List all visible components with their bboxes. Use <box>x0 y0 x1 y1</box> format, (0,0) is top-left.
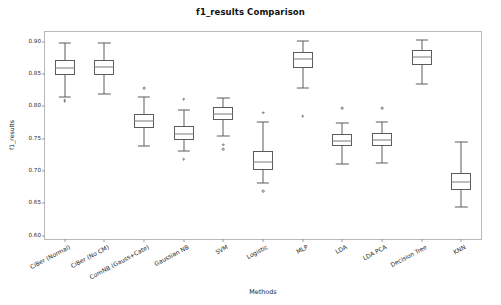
median-line <box>55 67 75 68</box>
whisker-cap-lower <box>455 206 467 207</box>
median-line <box>412 57 432 58</box>
y-axis-label: f1_results <box>8 120 15 150</box>
x-axis-tick-label: CiBer (Normal) <box>29 244 71 270</box>
box-iqr <box>293 52 313 68</box>
whisker-upper <box>263 122 264 151</box>
whisker-upper <box>302 41 303 52</box>
whisker-lower <box>461 190 462 206</box>
whisker-upper <box>144 97 145 113</box>
x-axis-tick-mark <box>381 239 382 242</box>
outlier-point <box>182 98 185 101</box>
whisker-cap-lower <box>59 97 71 98</box>
whisker-upper <box>381 122 382 133</box>
whisker-cap-lower <box>217 135 229 136</box>
x-axis-tick-mark <box>421 239 422 242</box>
median-line <box>174 133 194 134</box>
y-axis-tick-label: 0.80 <box>29 104 41 110</box>
chart-title: f1_results Comparison <box>0 7 501 17</box>
x-axis-tick-label: Gaussian NB <box>153 244 189 267</box>
x-axis-tick-label: KNN <box>453 244 467 255</box>
y-axis-tick-mark <box>42 138 45 139</box>
y-axis-tick-label: 0.85 <box>29 71 41 77</box>
box-plot-group <box>174 32 194 239</box>
whisker-lower <box>223 120 224 136</box>
outlier-point <box>143 87 146 90</box>
whisker-lower <box>144 128 145 145</box>
box-plot-group <box>332 32 352 239</box>
box-plot-group <box>451 32 471 239</box>
x-axis-tick-mark <box>144 239 145 242</box>
outlier-point <box>381 107 384 110</box>
figure-canvas: f1_results Comparison f1_results 0.600.6… <box>0 0 501 305</box>
whisker-cap-upper <box>376 122 388 123</box>
whisker-upper <box>461 142 462 173</box>
x-axis-tick-mark <box>183 239 184 242</box>
whisker-cap-upper <box>455 141 467 142</box>
box-plot-group <box>412 32 432 239</box>
whisker-cap-upper <box>336 123 348 124</box>
x-axis-tick-mark <box>64 239 65 242</box>
median-line <box>134 120 154 121</box>
plot-area: 0.600.650.700.750.800.850.90 <box>44 31 482 240</box>
x-axis-tick-mark <box>263 239 264 242</box>
x-axis-label: Methods <box>44 288 482 296</box>
whisker-lower <box>104 75 105 94</box>
whisker-cap-lower <box>138 145 150 146</box>
x-axis-tick-mark <box>302 239 303 242</box>
median-line <box>293 59 313 60</box>
box-plot-group <box>213 32 233 239</box>
y-axis-tick-label: 0.65 <box>29 201 41 207</box>
whisker-upper <box>104 43 105 60</box>
whisker-upper <box>64 43 65 60</box>
whisker-cap-lower <box>336 163 348 164</box>
whisker-upper <box>342 123 343 134</box>
box-iqr <box>253 151 273 169</box>
x-axis-tick-label: LDA PCA <box>362 244 388 261</box>
box-plot-group <box>293 32 313 239</box>
whisker-cap-upper <box>217 97 229 98</box>
y-axis-tick-mark <box>42 106 45 107</box>
whisker-cap-upper <box>59 42 71 43</box>
whisker-lower <box>381 146 382 163</box>
outlier-point <box>262 190 265 193</box>
x-axis-tick-mark <box>223 239 224 242</box>
outlier-point <box>64 100 67 103</box>
whisker-upper <box>223 98 224 107</box>
box-plot-group <box>372 32 392 239</box>
median-line <box>94 66 114 67</box>
x-axis-tick-label: SVM <box>215 244 229 255</box>
whisker-cap-lower <box>415 84 427 85</box>
whisker-cap-lower <box>178 151 190 152</box>
y-axis-tick-mark <box>42 235 45 236</box>
outlier-point <box>222 144 225 147</box>
x-axis-tick-label: Logistic <box>246 244 269 260</box>
median-line <box>253 162 273 163</box>
outlier-point <box>262 112 265 115</box>
whisker-cap-lower <box>98 94 110 95</box>
whisker-cap-upper <box>138 97 150 98</box>
whisker-lower <box>183 140 184 151</box>
median-line <box>332 140 352 141</box>
y-axis-tick-label: 0.70 <box>29 168 41 174</box>
whisker-cap-upper <box>178 110 190 111</box>
x-axis-tick-mark <box>104 239 105 242</box>
whisker-cap-lower <box>296 87 308 88</box>
y-axis-tick-mark <box>42 74 45 75</box>
outlier-point <box>341 107 344 110</box>
whisker-lower <box>64 75 65 97</box>
whisker-lower <box>342 146 343 163</box>
box-plot-group <box>55 32 75 239</box>
whisker-lower <box>302 68 303 87</box>
outlier-point <box>182 158 185 161</box>
y-axis-tick-mark <box>42 171 45 172</box>
x-axis-tick-mark <box>342 239 343 242</box>
box-plot-group <box>134 32 154 239</box>
box-plot-group <box>253 32 273 239</box>
whisker-cap-upper <box>296 41 308 42</box>
median-line <box>451 182 471 183</box>
whisker-cap-upper <box>415 40 427 41</box>
whisker-upper <box>421 40 422 50</box>
y-axis-tick-label: 0.60 <box>29 233 41 239</box>
y-axis-tick-mark <box>42 41 45 42</box>
x-axis-tick-label: LDA <box>335 244 348 255</box>
